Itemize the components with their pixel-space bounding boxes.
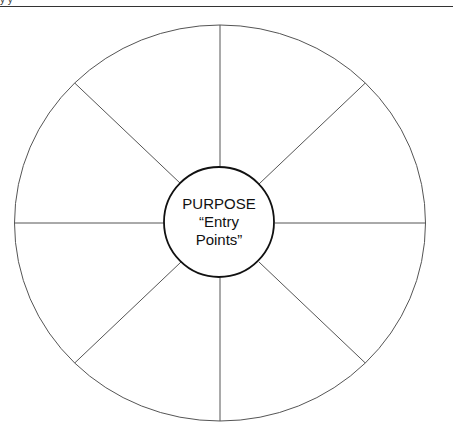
center-label-line2: “Entry: [164, 213, 274, 231]
spoke-bottom-right: [259, 262, 365, 363]
spoke-bottom-left: [75, 262, 181, 363]
spoke-top-left: [75, 83, 181, 184]
center-label-line3: Points”: [164, 231, 274, 249]
spoke-top-right: [259, 83, 365, 184]
center-label-line1: PURPOSE: [164, 195, 274, 213]
center-label: PURPOSE “Entry Points”: [164, 195, 274, 249]
